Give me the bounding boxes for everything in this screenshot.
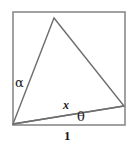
side-x-label: x [63, 99, 69, 111]
base-length-label: 1 [64, 129, 71, 142]
geometry-diagram-svg [0, 0, 137, 147]
angle-theta-label: θ [77, 110, 85, 123]
angle-alpha-label: α [15, 76, 24, 89]
geometry-figure: α x θ 1 [0, 0, 137, 147]
